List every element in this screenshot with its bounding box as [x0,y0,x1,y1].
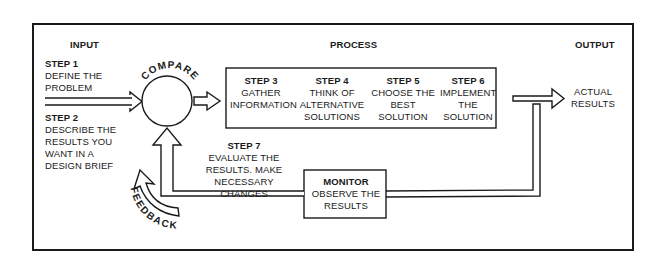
step-text: GATHER [230,87,292,99]
section-input: INPUT [70,39,99,51]
process-step-5: STEP 5 CHOOSE THE BEST SOLUTION [370,75,436,123]
input-step-1: STEP 1 DEFINE THE PROBLEM [45,58,102,94]
step-text: INFORMATION [230,99,292,111]
step-text: THE [440,99,496,111]
process-step-3: STEP 3 GATHER INFORMATION [230,75,292,111]
evaluate-step-7: STEP 7 EVALUATE THE RESULTS. MAKE NECESS… [190,140,298,200]
step-label: STEP 1 [45,58,102,70]
step-text: SOLUTION [370,111,436,123]
step-label: STEP 4 [298,75,366,87]
step-text: RESULTS YOU [45,136,116,148]
monitor-text: OBSERVE THE [304,188,388,200]
step-label: STEP 2 [45,112,116,124]
compare-label: COMPARE [130,58,210,98]
step-text: BEST [370,99,436,111]
section-output: OUTPUT [575,39,615,51]
step-text: PROBLEM [45,82,102,94]
step-text: ALTERNATIVE [298,99,366,111]
output-actual-results: ACTUAL RESULTS [568,86,618,110]
input-step-2: STEP 2 DESCRIBE THE RESULTS YOU WANT IN … [45,112,116,172]
step-text: SOLUTION [440,111,496,123]
svg-text:FEEDBACK: FEEDBACK [128,186,178,230]
step-text: NECESSARY CHANGES [190,176,298,200]
step-text: DEFINE THE [45,70,102,82]
monitor-box: MONITOR OBSERVE THE RESULTS [304,176,388,212]
step-label: STEP 6 [440,75,496,87]
step-label: STEP 3 [230,75,292,87]
step-text: EVALUATE THE [190,152,298,164]
monitor-title: MONITOR [304,176,388,188]
step-text: RESULTS. MAKE [190,164,298,176]
svg-text:COMPARE: COMPARE [139,59,202,82]
section-process: PROCESS [330,39,377,51]
step-text: DESCRIBE THE [45,124,116,136]
process-step-6: STEP 6 IMPLEMENT THE SOLUTION [440,75,496,123]
step-text: CHOOSE THE [370,87,436,99]
step-label: STEP 5 [370,75,436,87]
output-text: ACTUAL [568,86,618,98]
step-text: DESIGN BRIEF [45,160,116,172]
monitor-text: RESULTS [304,200,388,212]
step-text: THINK OF [298,87,366,99]
step-text: IMPLEMENT [440,87,496,99]
step-text: WANT IN A [45,148,116,160]
process-step-4: STEP 4 THINK OF ALTERNATIVE SOLUTIONS [298,75,366,123]
output-text: RESULTS [568,98,618,110]
feedback-label: FEEDBACK [118,160,198,230]
step-text: SOLUTIONS [298,111,366,123]
step-label: STEP 7 [190,140,298,152]
